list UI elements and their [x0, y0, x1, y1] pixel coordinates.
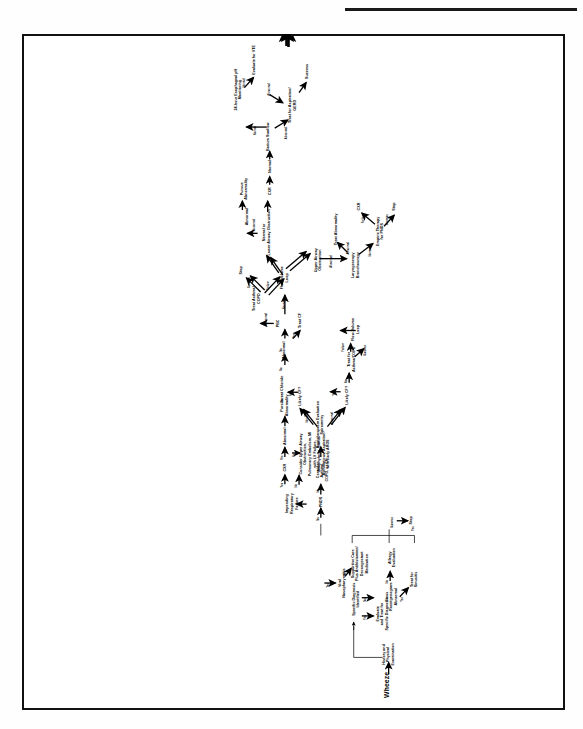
- rotated-flowchart-canvas-2: [26, 38, 561, 706]
- flowchart-arrows-far: [26, 38, 561, 706]
- figure-frame: Wheeze History and Physical Examination …: [22, 34, 565, 710]
- page-canvas: Wheeze History and Physical Examination …: [0, 0, 583, 729]
- page-top-rule: [345, 8, 577, 11]
